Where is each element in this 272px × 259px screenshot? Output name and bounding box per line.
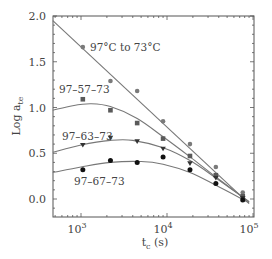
series-label-97-57-73: 97–57–73	[59, 83, 110, 95]
y-axis-title-sub: te	[16, 96, 25, 104]
series-label-97-67-73: 97–67–73	[74, 175, 125, 187]
y-tick-label: 2.0	[29, 10, 47, 23]
x-tick-label: 105	[239, 221, 258, 236]
series-label-97-63-73: 97–63–73	[62, 130, 113, 142]
data-point-circle-black	[108, 158, 113, 163]
data-point-circle-black	[187, 167, 192, 172]
data-point-square	[81, 97, 86, 102]
data-point-circle-gray	[188, 142, 193, 147]
data-point-circle-gray	[135, 89, 140, 94]
data-point-square	[161, 136, 166, 141]
data-point-circle-gray	[161, 119, 166, 124]
y-tick-label: 0.5	[29, 147, 47, 160]
data-point-circle-black	[240, 197, 245, 202]
x-tick-label: 104	[153, 221, 172, 236]
data-point-circle-black	[213, 181, 218, 186]
y-tick-label: 0.0	[29, 193, 47, 206]
data-point-square	[108, 108, 113, 113]
data-point-circle-black	[135, 160, 140, 165]
y-axis-title: Log ate	[10, 96, 25, 135]
svg-text:Log ate: Log ate	[10, 96, 25, 135]
data-point-triangle	[187, 161, 193, 166]
x-axis-title: tc (s)	[142, 236, 169, 251]
data-point-circle-black	[80, 167, 85, 172]
y-tick-label: 1.0	[29, 102, 47, 115]
data-point-square	[135, 121, 140, 126]
data-point-circle-black	[161, 154, 166, 159]
data-point-square	[188, 154, 193, 159]
data-point-circle-gray	[81, 45, 86, 50]
x-axis-title-unit: (s)	[151, 236, 169, 249]
chart: 0.00.51.01.52.0 103104105 97°C to 73°C 9…	[0, 0, 272, 259]
y-tick-label: 1.5	[29, 56, 47, 69]
data-point-circle-gray	[214, 165, 219, 170]
y-axis-title-main: Log a	[10, 104, 23, 135]
x-tick-label: 103	[67, 221, 86, 236]
series-label-97-to-73: 97°C to 73°C	[90, 41, 161, 53]
y-axis-ticks: 0.00.51.01.52.0	[29, 10, 255, 208]
